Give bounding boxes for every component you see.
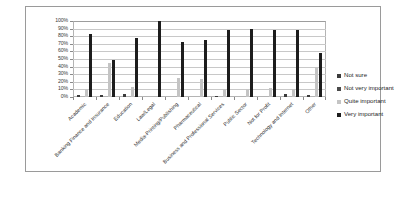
bar: [296, 30, 299, 97]
legend-swatch-icon: [337, 87, 341, 91]
legend-label: Very important: [344, 111, 383, 117]
legend-item[interactable]: Quite important: [337, 95, 394, 108]
y-axis-tick-label: 30%: [58, 72, 68, 77]
legend-item[interactable]: Not very important: [337, 82, 394, 95]
bar: [269, 88, 272, 97]
legend-item[interactable]: Very important: [337, 108, 394, 121]
bar: [292, 89, 295, 97]
y-axis-tick-label: 50%: [58, 56, 68, 61]
bar-group: [303, 21, 326, 97]
chart-frame: 100%90%80%70%60%50%40%30%20%10%0% Academ…: [25, 6, 381, 172]
bar-group: [257, 21, 280, 97]
bar: [85, 89, 88, 97]
x-axis-label: Other: [303, 101, 317, 115]
x-axis-label: Technology and Internet: [250, 101, 294, 145]
bar-group: [188, 21, 211, 97]
bar: [177, 78, 180, 97]
bar: [246, 89, 249, 97]
bar: [131, 87, 134, 97]
x-axis-label: Law/Legal: [134, 101, 155, 122]
legend-swatch-icon: [337, 113, 341, 117]
bar-group: [73, 21, 96, 97]
plot-area: 100%90%80%70%60%50%40%30%20%10%0%: [73, 21, 326, 97]
legend-swatch-icon: [337, 74, 341, 78]
bar: [89, 34, 92, 97]
x-axis-label: Education: [112, 101, 133, 122]
x-axis-label: Media-Printing/Publishing: [132, 101, 179, 148]
bar: [77, 95, 80, 97]
bar-group: [280, 21, 303, 97]
bar: [181, 42, 184, 97]
bar: [108, 63, 111, 97]
bar: [112, 60, 115, 97]
bar: [100, 95, 103, 97]
bar-group: [234, 21, 257, 97]
bar-series-container: [73, 21, 326, 97]
x-axis-label: Academic: [66, 101, 87, 122]
y-axis-tick-label: 20%: [58, 79, 68, 84]
chart-figure: 100%90%80%70%60%50%40%30%20%10%0% Academ…: [0, 0, 408, 208]
bar-group: [165, 21, 188, 97]
legend-label: Quite important: [344, 98, 386, 104]
y-axis-tick-label: 70%: [58, 41, 68, 46]
bar: [123, 94, 126, 97]
bar-group: [96, 21, 119, 97]
chart-legend: Not sureNot very importantQuite importan…: [337, 69, 394, 121]
bar: [204, 40, 207, 97]
bar: [135, 38, 138, 97]
legend-label: Not sure: [344, 72, 367, 78]
bar: [273, 30, 276, 97]
bar: [250, 29, 253, 97]
y-axis-tick-label: 10%: [58, 87, 68, 92]
legend-swatch-icon: [337, 100, 341, 104]
bar-group: [119, 21, 142, 97]
bar-group: [142, 21, 165, 97]
bar: [215, 96, 218, 97]
y-axis-tick-label: 0%: [61, 94, 68, 99]
bar-group: [211, 21, 234, 97]
bar: [319, 53, 322, 97]
bar: [315, 67, 318, 97]
bar: [307, 95, 310, 97]
bar: [223, 89, 226, 97]
y-axis-tick-label: 90%: [58, 26, 68, 31]
legend-label: Not very important: [344, 85, 394, 91]
legend-item[interactable]: Not sure: [337, 69, 394, 82]
bar: [200, 79, 203, 97]
y-axis-tick-label: 60%: [58, 49, 68, 54]
bar: [158, 21, 161, 97]
y-axis-tick-label: 80%: [58, 34, 68, 39]
bar: [227, 30, 230, 97]
bar: [284, 94, 287, 97]
y-axis-tick-label: 40%: [58, 64, 68, 69]
y-axis-tick-label: 100%: [55, 18, 68, 23]
